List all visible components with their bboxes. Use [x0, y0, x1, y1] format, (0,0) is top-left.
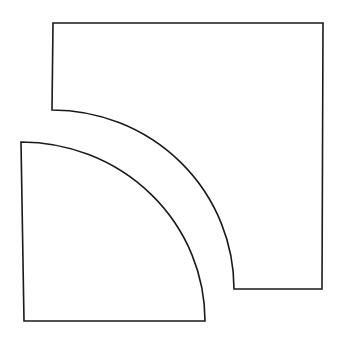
diagram-svg: [0, 0, 342, 340]
lower-quarter-circle-shape: [21, 142, 205, 321]
diagram-canvas: [0, 0, 342, 340]
